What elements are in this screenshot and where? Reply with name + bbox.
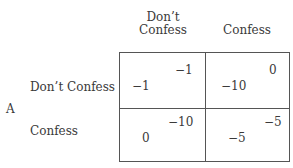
column-header-confess: Confess [222,24,272,37]
column-player-payoff: −1 [175,63,193,77]
row-player-payoff: −1 [132,79,150,93]
row-player-payoff: −10 [221,79,246,93]
column-header-line2: Confess [138,24,188,37]
payoff-cell-confess-dont: −10 0 [120,109,205,162]
column-player-payoff: 0 [269,63,277,77]
payoff-cell-dont-dont: −1 −1 [120,53,205,108]
row-player-label: A [6,102,15,116]
column-header-line2: Confess [222,24,272,37]
row-player-payoff: 0 [142,131,150,145]
column-player-payoff: −5 [264,115,282,129]
payoff-matrix-grid: −1 −1 0 −10 −10 0 −5 −5 [119,52,290,162]
column-player-payoff: −10 [168,115,193,129]
column-header-dont-confess: Don’t Confess [138,11,188,37]
row-label-dont-confess: Don’t Confess [30,80,115,94]
row-label-confess: Confess [30,124,78,138]
row-player-payoff: −5 [228,131,246,145]
payoff-cell-confess-confess: −5 −5 [206,109,290,162]
payoff-cell-dont-confess: 0 −10 [206,53,290,108]
